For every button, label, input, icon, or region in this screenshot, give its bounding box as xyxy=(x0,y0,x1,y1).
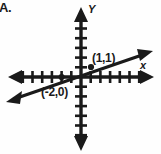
x-axis-label: x xyxy=(140,60,146,71)
coordinate-plane-svg xyxy=(0,0,161,154)
point-label-1-1: (1,1) xyxy=(92,52,115,64)
problem-label: A. xyxy=(0,1,11,14)
y-axis-arrow-up xyxy=(74,7,88,22)
x-axis-arrow-right xyxy=(140,70,154,84)
point-label-neg2-0: (-2,0) xyxy=(41,86,68,98)
y-axis-arrow-down xyxy=(74,136,88,151)
point-marker-neg2-0 xyxy=(59,74,65,80)
x-axis-arrow-left xyxy=(8,70,22,84)
graph-figure: A. Y x (1,1) (-2,0) xyxy=(0,0,161,154)
y-axis-label: Y xyxy=(88,4,95,15)
plotted-line-arrow-left xyxy=(6,91,22,104)
